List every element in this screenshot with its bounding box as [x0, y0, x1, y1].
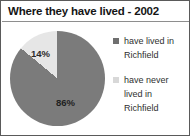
legend-item-have-never-lived: have never lived in Richfield	[113, 73, 189, 115]
title-divider	[2, 21, 190, 22]
plot-area: 14% 86%	[9, 29, 107, 128]
legend-item-have-lived: have lived in Richfield	[113, 34, 189, 62]
page-title: Where they have lived - 2002	[8, 4, 184, 18]
legend-item-label: have never lived in Richfield	[124, 73, 189, 115]
legend-swatch-icon	[113, 77, 119, 83]
legend-item-label: have lived in Richfield	[124, 34, 189, 62]
pie-slice-label-minor: 14%	[31, 48, 50, 59]
pie-slice-label-major: 86%	[56, 97, 75, 108]
legend: have lived in Richfield have never lived…	[113, 34, 189, 126]
legend-swatch-icon	[113, 38, 119, 44]
pie-chart-figure: Where they have lived - 2002 14% 86% hav…	[0, 0, 190, 136]
pie-graphic	[10, 31, 105, 126]
